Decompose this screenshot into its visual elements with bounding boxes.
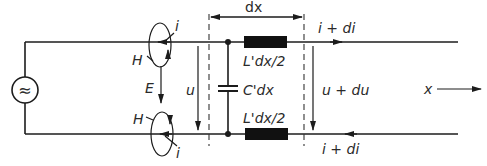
i-di-label-top: i + di <box>318 20 355 36</box>
capacitance-label: C'dx <box>243 82 275 98</box>
i-label-bottom: i <box>176 145 180 161</box>
inductor-top <box>244 36 287 48</box>
h-label-bottom: H <box>133 111 144 127</box>
h-field-loop-top <box>147 23 174 67</box>
ac-symbol: ≈ <box>18 81 31 100</box>
transmission-line-diagram: ≈ dx <box>0 0 487 166</box>
inductance-label-bottom: L'dx/2 <box>243 110 286 126</box>
e-label: E <box>145 80 154 96</box>
i-di-label-bottom: i + di <box>322 141 359 157</box>
inductance-label-top: L'dx/2 <box>243 53 286 69</box>
capacitor-branch <box>218 39 238 137</box>
x-label: x <box>423 81 433 97</box>
inductor-bottom <box>245 128 288 140</box>
u-label: u <box>186 82 195 98</box>
h-leader-top <box>147 56 153 61</box>
h-leader-bottom <box>146 117 153 120</box>
u-du-label: u + du <box>322 82 369 98</box>
dx-label: dx <box>245 0 262 15</box>
h-label-top: H <box>132 52 143 68</box>
ac-source: ≈ <box>12 42 38 134</box>
i-label-top: i <box>175 18 179 34</box>
